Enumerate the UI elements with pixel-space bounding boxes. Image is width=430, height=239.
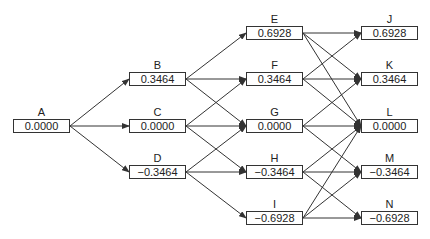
node-box-j: 0.6928 xyxy=(361,26,418,40)
node-box-a: 0.0000 xyxy=(13,119,70,133)
node-box-b: 0.3464 xyxy=(129,72,186,86)
node-label-f: F xyxy=(246,60,303,71)
node-label-l: L xyxy=(361,107,418,118)
node-label-k: K xyxy=(361,60,418,71)
node-label-b: B xyxy=(129,60,186,71)
node-box-d: −0.3464 xyxy=(129,165,186,179)
node-box-h: −0.3464 xyxy=(246,165,303,179)
edge-a-d-arrow-icon xyxy=(70,126,129,172)
node-label-j: J xyxy=(361,14,418,25)
node-label-d: D xyxy=(129,153,186,164)
node-box-m: −0.3464 xyxy=(361,165,418,179)
node-box-g: 0.0000 xyxy=(246,119,303,133)
node-label-c: C xyxy=(129,107,186,118)
node-box-n: −0.6928 xyxy=(361,211,418,225)
node-label-i: I xyxy=(246,199,303,210)
edge-a-b-arrow-icon xyxy=(70,79,129,126)
node-label-g: G xyxy=(246,107,303,118)
node-box-e: 0.6928 xyxy=(246,26,303,40)
node-label-m: M xyxy=(361,153,418,164)
node-box-c: 0.0000 xyxy=(129,119,186,133)
node-label-a: A xyxy=(13,107,70,118)
node-label-h: H xyxy=(246,153,303,164)
edge-b-e-arrow-icon xyxy=(186,33,246,79)
edge-d-i-arrow-icon xyxy=(186,172,246,218)
node-box-k: 0.3464 xyxy=(361,72,418,86)
node-label-n: N xyxy=(361,199,418,210)
trinomial-tree-diagram: A0.0000B0.3464C0.0000D−0.3464E0.6928F0.3… xyxy=(0,0,430,239)
node-box-i: −0.6928 xyxy=(246,211,303,225)
node-box-l: 0.0000 xyxy=(361,119,418,133)
node-label-e: E xyxy=(246,14,303,25)
node-box-f: 0.3464 xyxy=(246,72,303,86)
